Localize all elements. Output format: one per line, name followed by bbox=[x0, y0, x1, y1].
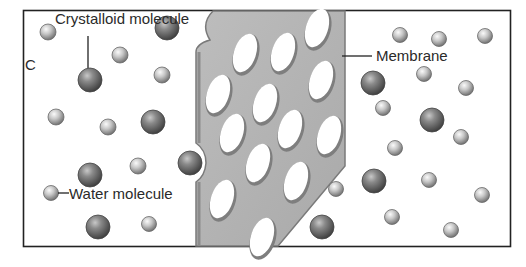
water-molecule bbox=[422, 173, 437, 188]
crystalloid-molecule bbox=[362, 169, 386, 193]
water-molecule bbox=[385, 210, 400, 225]
water-molecule bbox=[154, 67, 170, 83]
water-molecule bbox=[100, 119, 116, 135]
water-molecule bbox=[48, 109, 64, 125]
water-molecule bbox=[112, 47, 128, 63]
water-molecule bbox=[444, 223, 459, 238]
crystalloid-molecule bbox=[361, 71, 385, 95]
crystalloid-molecule bbox=[420, 108, 444, 132]
water-molecule bbox=[388, 141, 403, 156]
crystalloid-molecule bbox=[310, 215, 334, 239]
crystalloid-molecule bbox=[78, 163, 102, 187]
water-molecule bbox=[393, 28, 408, 43]
crystalloid-molecule bbox=[178, 151, 202, 175]
water-molecule bbox=[459, 81, 474, 96]
water-molecule bbox=[454, 130, 469, 145]
crystalloid-molecule bbox=[78, 68, 102, 92]
water-molecule bbox=[44, 186, 59, 201]
panel-letter: C bbox=[25, 56, 36, 73]
crystalloid-molecule bbox=[86, 215, 110, 239]
water-molecule bbox=[130, 158, 146, 174]
water-molecule bbox=[40, 24, 56, 40]
water-molecule bbox=[329, 182, 344, 197]
crystalloid-label: Crystalloid molecule bbox=[55, 10, 189, 27]
water-molecule bbox=[376, 101, 391, 116]
osmosis-diagram: C Crystalloid molecule Membrane Water mo… bbox=[0, 0, 526, 267]
water-molecule bbox=[417, 67, 432, 82]
crystalloid-molecule bbox=[141, 110, 165, 134]
water-label: Water molecule bbox=[69, 185, 173, 202]
water-molecule bbox=[475, 188, 490, 203]
water-molecule bbox=[432, 32, 447, 47]
water-molecule bbox=[142, 217, 157, 232]
membrane-label: Membrane bbox=[376, 47, 448, 64]
water-molecule bbox=[478, 29, 493, 44]
